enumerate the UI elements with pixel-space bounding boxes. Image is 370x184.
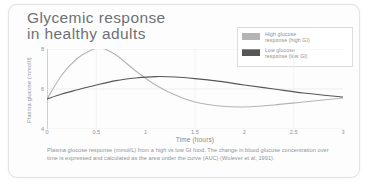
- legend-label-high-gi: High glucose response (high GI): [265, 31, 310, 44]
- legend-item-high-gi: High glucose response (high GI): [242, 31, 349, 44]
- legend-swatch-high-gi: [242, 33, 260, 40]
- y-tick-label: 8: [41, 46, 44, 52]
- x-tick-label: 1: [144, 129, 147, 135]
- x-tick-label: 2: [243, 129, 246, 135]
- chart-canvas: [47, 49, 343, 129]
- x-tick-label: 0.5: [92, 129, 100, 135]
- y-tick-label: 6: [41, 86, 44, 92]
- x-tick-label: 2.5: [290, 129, 298, 135]
- chart-title: Glycemic response in healthy adults: [27, 10, 242, 41]
- figure-caption: Plasma glucose response (mmol/L) from a …: [47, 147, 337, 162]
- x-tick-label: 3: [341, 129, 344, 135]
- y-axis-title: Plasma glucose (mmol/l): [26, 53, 32, 127]
- figure-card: Glycemic response in healthy adults High…: [8, 4, 360, 178]
- y-tick-label: 4: [41, 126, 44, 132]
- x-tick-label: 0: [45, 129, 48, 135]
- x-tick-label: 1.5: [191, 129, 199, 135]
- plot-area: Plasma glucose (mmol/l) 864: [47, 49, 343, 129]
- x-axis-title: Time (hours): [47, 136, 343, 143]
